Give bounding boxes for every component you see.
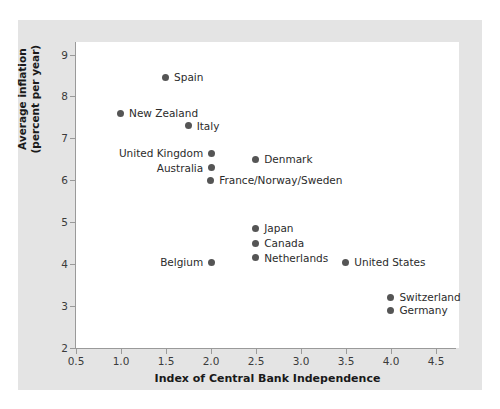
data-point-marker [252,240,259,247]
data-point-label: Denmark [264,154,312,165]
data-point-label: Belgium [160,257,203,268]
x-axis-tick [121,349,122,354]
data-point: New Zealand [117,107,198,119]
data-point-marker [162,74,169,81]
data-point-label: France/Norway/Sweden [219,175,342,186]
data-point-marker [207,177,214,184]
data-point: Germany [387,304,447,316]
data-point: Spain [162,72,203,84]
data-point: United States [342,256,425,268]
x-axis-tick-label: 0.5 [58,356,94,367]
data-point-marker [208,150,215,157]
data-point-marker [252,254,259,261]
y-axis-tick-label: 8 [48,91,68,102]
x-axis-tick-label: 1.0 [103,356,139,367]
data-point-marker [208,259,215,266]
data-point: Switzerland [387,292,460,304]
data-point-label: Spain [174,72,203,83]
y-axis-tick-label: 7 [48,133,68,144]
y-axis-tick [70,96,76,97]
data-point-marker [387,307,394,314]
x-axis-tick [166,349,167,354]
y-axis-tick [70,306,76,307]
y-axis-tick [70,180,76,181]
data-point: France/Norway/Sweden [207,174,342,186]
x-axis-tick-label: 1.5 [148,356,184,367]
data-point: Denmark [252,153,312,165]
data-point: Canada [252,237,304,249]
data-point: Italy [185,120,220,132]
x-axis-tick [256,349,257,354]
data-point-label: Switzerland [399,292,460,303]
x-axis-tick-label: 2.0 [193,356,229,367]
y-axis-tick-label: 5 [48,217,68,228]
y-axis-tick-label: 2 [48,343,68,354]
data-point: Netherlands [252,252,328,264]
y-axis-tick-label: 9 [48,50,68,61]
x-axis-tick [391,349,392,354]
x-axis-tick [76,349,77,354]
y-axis-title: Average inflation (percent per year) [16,14,42,184]
y-axis-tick-label: 3 [48,301,68,312]
x-axis-tick-label: 4.0 [373,356,409,367]
data-point-marker [252,225,259,232]
y-axis-line [75,42,76,349]
data-point-marker [387,294,394,301]
x-axis-tick [301,349,302,354]
x-axis-title: Index of Central Bank Independence [76,372,459,385]
data-point-marker [117,110,124,117]
data-point-label: Japan [264,223,293,234]
y-axis-tick-label: 6 [48,175,68,186]
y-axis-title-line2: (percent per year) [29,14,42,184]
y-axis-tick [70,138,76,139]
x-axis-tick [436,349,437,354]
y-axis-tick [70,222,76,223]
data-point-label: Canada [264,238,304,249]
data-point-label: Australia [157,163,203,174]
x-axis-line [75,348,456,349]
x-axis-tick [211,349,212,354]
data-point-label: United States [354,257,425,268]
data-point-marker [208,164,215,171]
y-axis-tick [70,55,76,56]
data-point: Belgium [0,256,215,268]
data-point-marker [342,259,349,266]
x-axis-tick-label: 2.5 [238,356,274,367]
data-point-label: New Zealand [129,108,198,119]
x-axis-tick-label: 3.0 [283,356,319,367]
data-point-label: Italy [197,121,220,132]
x-axis-tick [346,349,347,354]
data-point-label: United Kingdom [119,148,203,159]
y-axis-title-line1: Average inflation [16,14,29,184]
data-point-marker [185,122,192,129]
data-point-marker [252,156,259,163]
x-axis-tick-label: 4.5 [418,356,454,367]
data-point: Japan [252,223,293,235]
x-axis-tick-label: 3.5 [328,356,364,367]
figure-root: 23456789 0.51.01.52.02.53.03.54.04.5 Spa… [0,0,500,409]
data-point-label: Germany [399,305,447,316]
data-point-label: Netherlands [264,253,328,264]
